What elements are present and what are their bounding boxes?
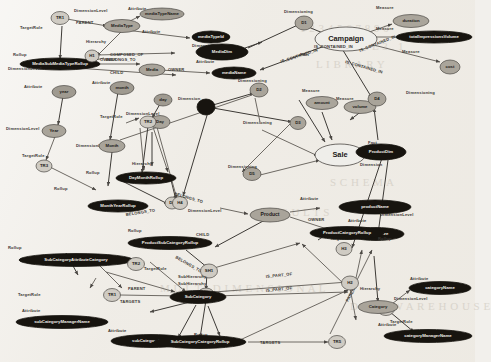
- edge-label-targetrole: TargetRole: [18, 292, 41, 297]
- edge-label-child: CHILD: [110, 70, 123, 75]
- svg-text:SubCategoryAttributeCategory: SubCategoryAttributeCategory: [44, 257, 108, 262]
- edge-label-attribute: Attribute: [108, 328, 127, 333]
- node-d1[interactable]: D1: [295, 16, 313, 30]
- node-subcategorycategoryrollup[interactable]: SubCategoryCategoryRollup: [154, 336, 246, 349]
- node-mediatype[interactable]: MediaType: [104, 20, 140, 33]
- node-mediatypeid[interactable]: mediaTypeId: [192, 31, 230, 43]
- edge-label-dimension: Dimension: [178, 96, 201, 101]
- edge-label-rollup: Rollup: [54, 186, 68, 191]
- edge-label-dimensionlevel: DimensionLevel: [380, 212, 414, 217]
- node-d4[interactable]: D4: [368, 92, 386, 106]
- svg-text:SH1: SH1: [205, 268, 214, 273]
- svg-text:SubCategory: SubCategory: [185, 294, 212, 299]
- node-tr5[interactable]: TR5: [329, 336, 346, 349]
- edge-label-hierarchy: Hierarchy: [132, 161, 153, 166]
- node-productdim[interactable]: ProductDim: [356, 144, 406, 160]
- edge-label-belongsto: BELONGS_TO: [175, 255, 204, 274]
- edge-label-attribute: Attribute: [24, 84, 43, 89]
- node-category[interactable]: Category: [358, 301, 398, 314]
- edge-label-owner: OWNER: [168, 67, 184, 72]
- edge-label-attribute: Attribute: [142, 29, 161, 34]
- svg-text:productName: productName: [361, 204, 389, 209]
- svg-text:TR5: TR5: [333, 339, 342, 344]
- node-daymonthrollup[interactable]: DayMonthRollup: [116, 172, 176, 184]
- node-duration[interactable]: duration: [393, 15, 429, 28]
- node-month-level[interactable]: Month: [99, 140, 125, 153]
- edge-label-attribute: Attribute: [378, 322, 397, 327]
- node-tr2-sub[interactable]: TR2: [128, 258, 145, 271]
- edge-label-dimensioning: Dimensioning: [406, 90, 435, 95]
- node-h1[interactable]: H1: [85, 50, 99, 62]
- svg-text:month: month: [115, 85, 129, 90]
- svg-text:totalImpressionsVolume: totalImpressionsVolume: [409, 34, 459, 39]
- svg-text:TR1: TR1: [108, 292, 117, 297]
- node-d5[interactable]: D5: [243, 168, 261, 181]
- node-h2[interactable]: H2: [342, 276, 359, 290]
- edge-label-rollup: Rollup: [128, 228, 142, 233]
- edge-label-measure: Measure: [302, 88, 320, 93]
- edge-label-dimensioning: Dimensioning: [228, 164, 257, 169]
- svg-text:year: year: [60, 89, 69, 94]
- edge-label-attribute: Attribute: [410, 276, 429, 281]
- node-amount[interactable]: amount: [306, 97, 338, 110]
- svg-text:volume: volume: [352, 104, 368, 109]
- edge-label-rollup: Rollup: [8, 245, 22, 250]
- node-timedim[interactable]: [197, 99, 215, 115]
- svg-text:ProductCategoryRollup: ProductCategoryRollup: [323, 230, 372, 235]
- node-media[interactable]: Media: [139, 64, 165, 76]
- node-subcategory[interactable]: SubCategory: [170, 291, 226, 304]
- edge-label-rollup: Rollup: [378, 236, 392, 241]
- edge-label-dimensioning: Dimensioning: [238, 78, 267, 83]
- node-h3[interactable]: H3: [336, 243, 352, 256]
- svg-text:Month: Month: [106, 143, 119, 148]
- edge-label-composedof: COMPOSED_OF: [110, 52, 144, 57]
- node-mediadim[interactable]: MediaDim: [196, 44, 248, 60]
- node-month-attr[interactable]: month: [110, 82, 134, 95]
- edge-label-dimensionlevel: DimensionLevel: [8, 66, 42, 71]
- svg-text:TR1: TR1: [56, 15, 65, 20]
- svg-text:MediaType: MediaType: [111, 23, 133, 28]
- svg-text:categoryName: categoryName: [425, 285, 455, 290]
- node-categoryname[interactable]: categoryName: [409, 282, 471, 295]
- node-tr1-top[interactable]: TR1: [51, 12, 69, 25]
- edge-label-dimensionlevel: DimensionLevel: [6, 126, 40, 131]
- node-d3[interactable]: D3: [290, 117, 306, 130]
- edge-label-subhierarchy: SubHierarchy: [178, 281, 207, 286]
- edge-label-child: CHILD: [196, 232, 209, 237]
- svg-text:H1: H1: [89, 53, 95, 58]
- svg-text:Year: Year: [49, 128, 58, 133]
- node-tr2-time[interactable]: TR2: [140, 116, 156, 128]
- edge-label-iscontainedin: IS_CONTAINED_IN: [280, 47, 318, 64]
- node-categorymanagername[interactable]: categoryManagerName: [384, 330, 472, 343]
- node-productcategoryrollup[interactable]: ProductCategoryRollup: [310, 227, 384, 240]
- node-day-attr[interactable]: day: [154, 94, 172, 106]
- svg-text:TR3: TR3: [40, 163, 49, 168]
- node-product[interactable]: Product: [250, 208, 290, 222]
- edge-label-rollup: Rollup: [13, 52, 27, 57]
- edge-label-parent: PARENT: [76, 20, 94, 25]
- svg-text:TR2: TR2: [144, 119, 153, 124]
- edge-label-parent: PARENT: [128, 286, 146, 291]
- svg-text:ProductSubCategoryRollup: ProductSubCategoryRollup: [142, 240, 199, 245]
- node-mediatypename[interactable]: mediaTypeName: [140, 8, 184, 20]
- node-subcategoryattributecategory[interactable]: SubCategoryAttributeCategory: [19, 254, 133, 267]
- svg-text:TR2: TR2: [132, 261, 141, 266]
- node-tr1-sub[interactable]: TR1: [104, 289, 121, 302]
- node-tr3-time[interactable]: TR3: [36, 160, 52, 172]
- edge-label-dimensionlevel: DimensionLevel: [74, 8, 108, 13]
- node-year-level[interactable]: Year: [42, 125, 66, 138]
- edge-label-dimensioning: Dimensioning: [243, 120, 272, 125]
- node-totalimpressionsvolume[interactable]: totalImpressionsVolume: [396, 31, 472, 43]
- node-productsubcategoryrollup[interactable]: ProductSubCategoryRollup: [128, 237, 212, 250]
- svg-text:MediaDim: MediaDim: [212, 49, 232, 54]
- node-subcategorymanagername[interactable]: subCategoryManagerName: [16, 316, 108, 329]
- svg-text:Sale: Sale: [332, 150, 347, 159]
- edge-label-ispartof: IS_PART_OF: [266, 285, 293, 293]
- edge-label-dimension: Dimension: [360, 162, 383, 167]
- node-cost[interactable]: cost: [440, 60, 460, 74]
- svg-text:mediaTypeId: mediaTypeId: [198, 34, 224, 39]
- node-d2[interactable]: D2: [250, 83, 268, 97]
- node-year-attr[interactable]: year: [52, 86, 76, 99]
